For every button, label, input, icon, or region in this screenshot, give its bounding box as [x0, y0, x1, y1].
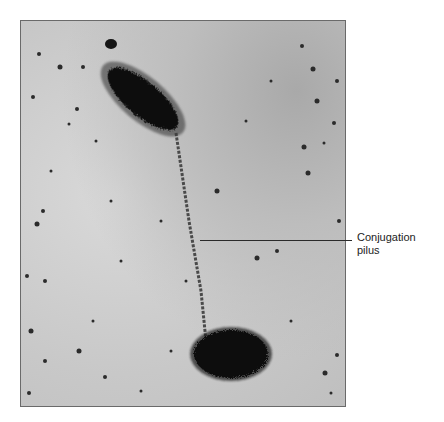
label-line-2: pilus	[357, 244, 416, 257]
debris-specks	[25, 44, 341, 395]
pilus	[176, 133, 206, 341]
micrograph-drawing	[21, 21, 346, 407]
label-line-1: Conjugation	[357, 231, 416, 244]
micrograph-image	[20, 20, 346, 407]
label-leader-line	[200, 240, 352, 241]
label-conjugation-pilus: Conjugation pilus	[357, 231, 416, 257]
donor-bacterium	[89, 39, 197, 149]
figure	[20, 20, 346, 407]
recipient-bacterium	[190, 327, 272, 381]
